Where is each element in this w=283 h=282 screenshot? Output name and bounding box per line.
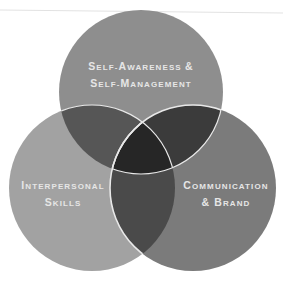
- venn-diagram: SELF-AWARENESS & SELF-MANAGEMENT INTERPE…: [0, 0, 283, 282]
